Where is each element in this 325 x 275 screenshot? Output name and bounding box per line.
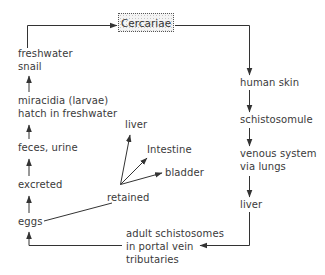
arrow-snail-to-cercariae (28, 26, 118, 49)
retained-label: retained (107, 191, 150, 204)
liver-host-label: liver (240, 198, 262, 211)
adult-schistosomes-label-1: adult schistosomes (126, 227, 224, 240)
cercariae-label: Cercariae (121, 17, 171, 29)
miracidia-label-1: miracidia (larvae) (18, 94, 108, 107)
adult-schistosomes-label-3: tributaries (126, 253, 179, 266)
retained-bladder-label: bladder (165, 166, 204, 179)
arrow-cercariae-to-skin (175, 26, 250, 76)
feces-urine-label: feces, urine (18, 141, 78, 154)
snail-label-1: freshwater (18, 47, 73, 60)
arrow-adult-to-eggs (29, 232, 122, 246)
cercariae-node: Cercariae (118, 13, 174, 32)
eggs-label: eggs (18, 215, 42, 228)
venous-system-label-1: venous system (240, 147, 317, 160)
retained-liver-label: liver (125, 118, 147, 131)
adult-schistosomes-label-2: in portal vein (126, 240, 193, 253)
snail-label-2: snail (18, 60, 42, 73)
schistosomule-label: schistosomule (240, 113, 313, 126)
venous-system-label-2: via lungs (240, 160, 286, 173)
miracidia-label-2: hatch in freshwater (18, 107, 117, 120)
retained-intestine-label: Intestine (147, 143, 192, 156)
human-skin-label: human skin (240, 76, 299, 89)
line-eggs-to-retained (44, 203, 112, 221)
excreted-label: excreted (18, 178, 62, 191)
